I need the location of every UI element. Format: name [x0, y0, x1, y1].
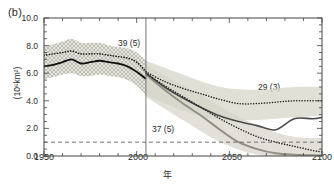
plot-area [0, 0, 334, 185]
figure-panel-b: (b) (10⁶km²) 10.0 8.0 6.0 4.0 2.0 0.0 19… [0, 0, 334, 185]
